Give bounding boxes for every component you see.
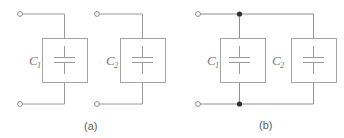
panel-b: C 1 C 2 (b) <box>196 11 337 131</box>
terminal-b-top[interactable] <box>196 12 201 17</box>
panel-label-a: (a) <box>84 120 97 132</box>
junction-node-b-bottom <box>237 101 242 106</box>
terminal-a1-top[interactable] <box>18 12 23 17</box>
terminal-a1-bottom[interactable] <box>18 102 23 107</box>
junction-node-b-top <box>237 11 242 16</box>
panel-label-b: (b) <box>259 119 272 131</box>
terminal-b-bottom[interactable] <box>196 102 201 107</box>
terminal-a2-bottom[interactable] <box>95 102 100 107</box>
capacitor-label-sub-a2: 2 <box>114 60 119 70</box>
circuit-canvas: C 1 C 2 <box>0 0 344 138</box>
capacitor-symbol-b2 <box>303 46 324 74</box>
circuit-figure: C 1 C 2 <box>0 0 344 138</box>
capacitor-box-a2 <box>121 39 166 83</box>
wire-group-b <box>200 14 314 104</box>
capacitor-label-sub-b2: 2 <box>280 60 285 70</box>
capacitor-label-sub-a1: 1 <box>37 60 41 70</box>
capacitor-symbol-b1 <box>229 46 250 74</box>
capacitor-box-a1 <box>43 39 88 83</box>
terminal-a2-top[interactable] <box>95 12 100 17</box>
capacitor-symbol-a1 <box>54 46 75 74</box>
capacitor-box-b1 <box>221 39 266 83</box>
capacitor-label-sub-b1: 1 <box>215 60 219 70</box>
panel-a: C 1 C 2 <box>18 12 166 132</box>
capacitor-box-b2 <box>292 39 337 83</box>
capacitor-symbol-a2 <box>132 46 153 74</box>
